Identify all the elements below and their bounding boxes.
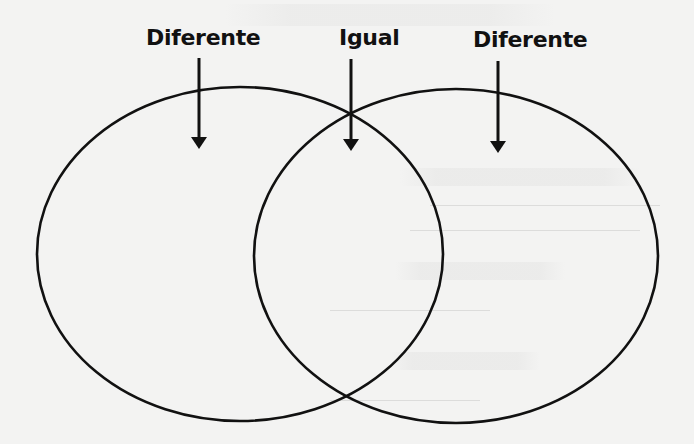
venn-diagram <box>0 0 694 444</box>
venn-worksheet: Diferente Igual Diferente <box>0 0 694 444</box>
label-left-different: Diferente <box>146 27 260 49</box>
label-right-different: Diferente <box>473 29 587 51</box>
arrow-center-down-icon <box>343 59 359 151</box>
left-circle <box>37 87 443 421</box>
arrow-left-down-icon <box>191 58 207 149</box>
label-center-same: Igual <box>339 27 399 49</box>
arrow-right-down-icon <box>490 61 506 153</box>
right-circle <box>254 89 658 423</box>
